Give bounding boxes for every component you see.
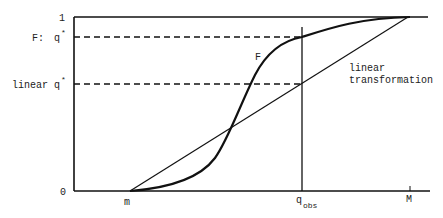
quantile-transformation-diagram: 1 0 F: q * linear q * m q obs M F linear…: [0, 0, 443, 218]
m-label: m: [124, 197, 130, 208]
q-obs-label: q: [296, 195, 302, 206]
F-q-label: q: [54, 33, 60, 44]
y-bottom-label: 0: [60, 187, 66, 198]
M-label: M: [406, 194, 412, 205]
linear-transformation-line: [130, 17, 408, 191]
linear-transformation-label-line2: transformation: [349, 75, 433, 86]
F-prefix-label: F:: [32, 33, 44, 44]
linear-transformation-label-line1: linear: [349, 63, 385, 74]
linear-q-label: q: [54, 80, 60, 91]
linear-q-star: *: [61, 75, 66, 84]
q-obs-subscript: obs: [303, 201, 318, 210]
linear-prefix-label: linear: [12, 80, 48, 91]
F-curve-label: F: [255, 52, 261, 63]
y-top-label: 1: [59, 13, 65, 24]
F-q-star: *: [61, 28, 66, 37]
